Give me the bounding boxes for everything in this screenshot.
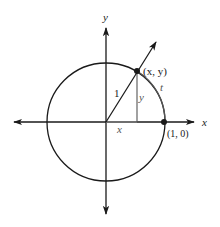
point-one-zero-dot bbox=[161, 119, 167, 125]
y-axis-label: y bbox=[102, 11, 108, 23]
arc-t-label: t bbox=[160, 81, 164, 93]
point-one-zero-label: (1, 0) bbox=[167, 128, 189, 140]
point-xy-dot bbox=[134, 68, 140, 74]
point-xy-label: (x, y) bbox=[143, 65, 167, 78]
vertical-leg-label: y bbox=[138, 91, 144, 103]
unit-circle-diagram: y x (x, y) (1, 0) 1 y x t bbox=[0, 0, 220, 227]
x-axis-label: x bbox=[201, 116, 207, 128]
radius-label: 1 bbox=[114, 87, 120, 99]
horizontal-leg-label: x bbox=[116, 123, 122, 135]
